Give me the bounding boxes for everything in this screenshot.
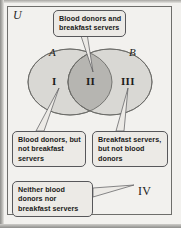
callout-left-only-line-2: not breakfast xyxy=(18,144,81,153)
callout-outside-line-3: breakfast servers xyxy=(18,204,88,213)
callout-intersection-line-1: Blood donors and xyxy=(59,14,121,23)
callout-intersection-line-2: breakfast servers xyxy=(59,23,121,32)
set-a-label: A xyxy=(49,46,56,58)
callout-outside: Neither blood donors nor breakfast serve… xyxy=(12,181,93,217)
callout-intersection: Blood donors and breakfast servers xyxy=(53,10,126,37)
callout-outside-line-2: donors nor xyxy=(18,194,88,203)
set-b-label: B xyxy=(129,46,136,58)
callout-outside-line-1: Neither blood xyxy=(18,185,88,194)
callout-right-only-line-1: Breakfast servers, xyxy=(98,135,163,144)
region-label-iv: IV xyxy=(138,184,151,199)
callout-left-only-line-1: Blood donors, but xyxy=(18,135,81,144)
callout-right-only-line-2: but not blood xyxy=(98,144,163,153)
region-label-i: I xyxy=(52,75,57,87)
callout-right-only: Breakfast servers, but not blood donors xyxy=(92,131,168,167)
region-label-ii: II xyxy=(86,75,95,87)
callout-left-only-line-3: servers xyxy=(18,154,81,163)
region-label-iii: III xyxy=(121,75,135,87)
venn-diagram-figure: U A B I II III IV Blood donors an xyxy=(0,0,181,228)
callout-left-only: Blood donors, but not breakfast servers xyxy=(12,131,86,167)
callout-right-only-line-3: donors xyxy=(98,154,163,163)
leader-tail-outside xyxy=(93,185,134,197)
